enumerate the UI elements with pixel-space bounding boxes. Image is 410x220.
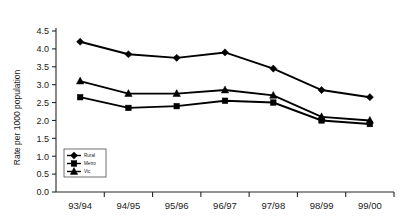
line-chart: Rate per 1000 population 0.00.51.01.52.0… [0,0,410,220]
data-point-metro-0 [77,94,83,100]
data-point-rural-2 [173,54,180,61]
series-metro [77,94,372,126]
x-tick-label: 97/98 [261,200,285,211]
y-tick-label: 3.5 [36,62,49,72]
legend-marker-metro [71,161,77,167]
data-point-vic-0 [76,77,83,84]
data-point-metro-3 [222,98,228,104]
data-point-rural-5 [318,86,325,93]
y-axis-ticks: 0.00.51.01.52.02.53.03.54.04.5 [36,26,56,197]
y-axis-title: Rate per 1000 population [12,69,22,165]
x-tick-label: 93/94 [68,200,92,211]
y-tick-label: 2.5 [36,98,49,108]
legend-label-vic: Vic [84,169,91,174]
y-tick-label: 3.0 [36,80,49,90]
y-tick-label: 4.5 [36,26,49,36]
legend-label-rural: Rural [84,153,95,158]
y-tick-label: 0.0 [36,187,49,197]
data-point-rural-6 [366,94,373,101]
data-point-metro-2 [174,103,180,109]
y-tick-label: 2.0 [36,116,49,126]
legend-label-metro: Metro [84,161,96,166]
data-point-metro-1 [126,105,132,111]
x-tick-label: 94/95 [117,200,141,211]
data-point-rural-1 [125,51,132,58]
y-tick-label: 4.0 [36,44,49,54]
data-point-metro-4 [270,100,276,106]
y-axis-label: Rate per 1000 population [12,69,22,165]
data-point-rural-4 [270,65,277,72]
y-tick-label: 1.0 [36,152,49,162]
x-tick-label: 96/97 [213,200,237,211]
x-axis-ticks: 93/9494/9595/9696/9797/9898/9999/00 [68,192,394,211]
chart-canvas: Rate per 1000 population 0.00.51.01.52.0… [0,0,410,220]
data-point-rural-3 [221,49,228,56]
y-tick-label: 1.5 [36,134,49,144]
data-point-rural-0 [77,38,84,45]
chart-legend: RuralMetroVic [64,149,106,177]
x-tick-label: 99/00 [358,200,382,211]
data-series-group [76,38,373,127]
y-tick-label: 0.5 [36,169,49,179]
x-tick-label: 95/96 [165,200,189,211]
x-tick-label: 98/99 [310,200,334,211]
